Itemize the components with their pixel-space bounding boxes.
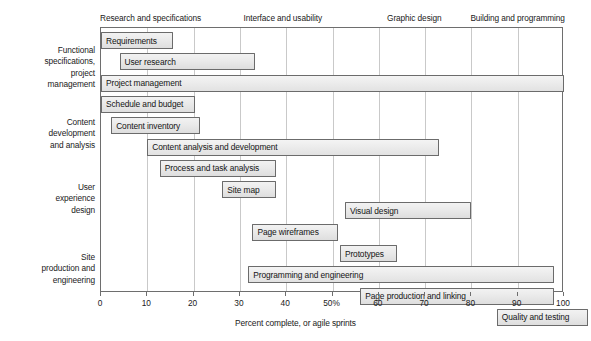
category-label-line: User — [9, 182, 95, 193]
x-tick-mark-90 — [517, 292, 518, 296]
x-tick-mark-20 — [193, 292, 194, 296]
task-bar-label: Programming and engineering — [249, 270, 363, 280]
x-tick-label-60: 60 — [373, 298, 382, 308]
task-bar[interactable]: User research — [120, 53, 256, 70]
task-bar-label: Site map — [223, 185, 259, 195]
phase-header-building-and-programming: Building and programming — [470, 13, 564, 24]
category-label-line: design — [9, 205, 95, 216]
x-tick-label-40: 40 — [281, 298, 290, 308]
task-bar[interactable]: Site map — [222, 181, 276, 198]
task-bar-label: Schedule and budget — [102, 99, 183, 109]
category-label-user-experience-design: User experience design — [9, 182, 95, 216]
x-tick-mark-100 — [563, 292, 564, 296]
category-label-line: Content — [9, 117, 95, 128]
category-label-line: Site — [9, 252, 95, 263]
gantt-chart: Research and specifications Interface an… — [0, 0, 591, 341]
x-tick-label-30: 30 — [234, 298, 243, 308]
plot-area: RequirementsUser researchProject managem… — [100, 27, 563, 292]
x-tick-label-80: 80 — [466, 298, 475, 308]
category-label-line: and analysis — [9, 140, 95, 151]
category-label-line: specifications, — [9, 56, 95, 67]
x-tick-mark-60 — [378, 292, 379, 296]
task-bar-label: Content analysis and development — [148, 142, 277, 152]
category-label-line: project — [9, 68, 95, 79]
task-bar[interactable]: Programming and engineering — [248, 266, 554, 283]
x-tick-mark-40 — [285, 292, 286, 296]
task-bar-label: Process and task analysis — [161, 163, 259, 173]
category-label-line: Functional — [9, 45, 95, 56]
x-tick-mark-10 — [146, 292, 147, 296]
gridline-90 — [518, 28, 519, 291]
x-axis: 01020304050%60708090100 — [100, 292, 563, 318]
category-label-line: engineering — [9, 275, 95, 286]
category-label-column: Functional specifications, project manag… — [5, 27, 95, 292]
category-label-line: development — [9, 128, 95, 139]
category-label-content-development: Content development and analysis — [9, 117, 95, 151]
gridline-80 — [471, 28, 472, 291]
phase-header-research-and-specifications: Research and specifications — [100, 13, 201, 24]
x-tick-label-50: 50% — [323, 298, 340, 308]
task-bar-label: Project management — [102, 78, 181, 88]
task-bar[interactable]: Page wireframes — [252, 224, 337, 241]
gridline-50 — [333, 28, 334, 291]
x-tick-label-70: 70 — [419, 298, 428, 308]
task-bar[interactable]: Requirements — [101, 32, 173, 49]
category-label-line: production and — [9, 263, 95, 274]
task-bar[interactable]: Process and task analysis — [160, 160, 276, 177]
task-bar[interactable]: Project management — [101, 75, 564, 92]
x-tick-mark-80 — [470, 292, 471, 296]
x-tick-label-10: 10 — [142, 298, 151, 308]
x-tick-label-90: 90 — [512, 298, 521, 308]
task-bar-label: Content inventory — [112, 121, 180, 131]
task-bar[interactable]: Visual design — [345, 202, 471, 219]
phase-header-graphic-design: Graphic design — [387, 13, 441, 24]
x-tick-label-0: 0 — [98, 298, 103, 308]
x-tick-mark-0 — [100, 292, 101, 296]
task-bar-label: Requirements — [102, 36, 157, 46]
category-label-line: management — [9, 79, 95, 90]
task-bar-label: Visual design — [346, 206, 398, 216]
task-bar[interactable]: Schedule and budget — [101, 96, 195, 113]
gridline-70 — [425, 28, 426, 291]
task-bar[interactable]: Content inventory — [111, 117, 199, 134]
x-tick-mark-30 — [239, 292, 240, 296]
category-label-site-production-engineering: Site production and engineering — [9, 252, 95, 286]
x-tick-mark-70 — [424, 292, 425, 296]
task-bar-label: Prototypes — [341, 249, 384, 259]
x-tick-label-100: 100 — [556, 298, 570, 308]
gridline-40 — [286, 28, 287, 291]
task-bar-label: User research — [121, 57, 176, 67]
task-bar[interactable]: Prototypes — [340, 245, 397, 262]
task-bar-label: Page wireframes — [253, 227, 318, 237]
category-label-functional-specifications: Functional specifications, project manag… — [9, 45, 95, 91]
phase-header-interface-and-usability: Interface and usability — [244, 13, 322, 24]
task-bar[interactable]: Content analysis and development — [147, 139, 439, 156]
category-label-line: experience — [9, 193, 95, 204]
x-axis-title: Percent complete, or agile sprints — [0, 318, 591, 329]
x-tick-mark-50 — [332, 292, 333, 296]
x-tick-label-20: 20 — [188, 298, 197, 308]
